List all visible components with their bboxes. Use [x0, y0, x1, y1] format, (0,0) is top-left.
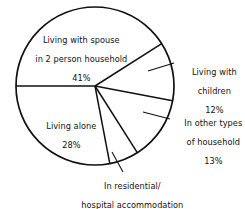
pie-chart: Living with spouse in 2 person household…	[0, 0, 245, 209]
slice-label-value: 28%	[62, 140, 80, 150]
slice-label-line-1: Living with	[192, 67, 237, 77]
slice-label-line-2: in 2 person household	[35, 54, 127, 64]
slice-label-living-with-spouse: Living with spouse in 2 person household…	[24, 26, 128, 93]
slice-label-in-other-types-of-household: In other types of household 13%	[172, 109, 244, 176]
slice-label-value: 41%	[72, 73, 90, 83]
slice-label-living-alone: Living alone 28%	[28, 112, 104, 160]
slice-label-value: 13%	[204, 156, 222, 166]
slice-label-in-residential-hospital-accommodation: In residential/ hospital accommodation 6…	[66, 172, 188, 209]
slice-label-line-2: hospital accommodation	[81, 200, 183, 209]
slice-label-line-2: of household	[187, 137, 240, 147]
slice-label-line-1: Living with spouse	[43, 35, 120, 45]
slice-label-line-1: In residential/	[104, 181, 161, 191]
slice-label-line-1: Living alone	[46, 121, 96, 131]
slice-label-line-2: children	[198, 86, 231, 96]
slice-label-line-1: In other types	[184, 118, 242, 128]
